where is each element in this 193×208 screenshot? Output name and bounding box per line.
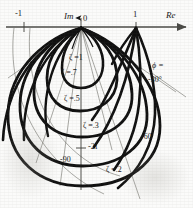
label-zeta-02: ζ =.2: [106, 166, 122, 174]
label-one: 1: [133, 10, 137, 19]
label-phi-symbol: ϕ =: [152, 62, 164, 70]
label-minus-one: -1: [15, 9, 22, 18]
label-real-axis: Re: [166, 11, 176, 20]
zeta-locus-group: [3, 28, 160, 188]
label-zeta-05: ζ =.5: [64, 95, 80, 103]
label-minus-two-i: -2i: [88, 142, 97, 151]
plot-area: [0, 0, 193, 208]
label-phi-minus90: -90: [60, 156, 71, 164]
label-phi-minus60: -60: [141, 133, 152, 141]
zeta-locus-02: [8, 28, 160, 186]
label-zeta-07: ζ =.7: [61, 69, 77, 77]
label-phi-minus30: -30°: [148, 76, 162, 84]
label-origin: 0: [83, 14, 87, 23]
figure-canvas: -1 Im 0 1 Re ζ =1 ζ =.7 ζ =.5 ζ =.3 ζ =.…: [0, 0, 193, 208]
label-zeta-03: ζ =.3: [83, 122, 99, 130]
label-zeta-1: ζ =1: [69, 54, 83, 62]
label-imaginary-axis: Im: [64, 12, 74, 21]
